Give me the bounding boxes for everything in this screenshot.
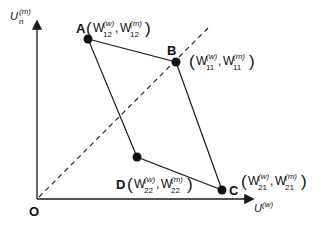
svg-text:11: 11 [206,63,215,72]
svg-text:(m): (m) [233,52,245,61]
svg-text:(m): (m) [171,175,183,184]
svg-text:): ) [187,175,193,194]
svg-text:(m): (m) [285,172,297,181]
label-b: B ( W (w) 11 , W (m) 11 ) [167,43,255,72]
label-c: C ( W (w) 21 , W (m) 21 ) [229,172,307,198]
point-d [133,153,142,162]
label-d: D ( W (w) 22 , W (m) 22 ) [116,175,193,195]
svg-text:(: ( [127,175,133,194]
svg-text:): ) [301,172,307,191]
svg-text:21: 21 [285,183,294,192]
svg-text:C: C [229,183,239,198]
svg-text:D: D [116,177,125,192]
svg-text:21: 21 [258,183,267,192]
svg-text:,: , [218,54,221,68]
svg-text:(: ( [86,19,92,38]
x-axis-label: U [254,202,262,214]
y-axis-sub: n [19,17,23,26]
svg-text:12: 12 [130,30,139,39]
diagonal-dashed-line [39,28,208,197]
svg-text:22: 22 [144,186,153,195]
svg-text:,: , [115,21,118,35]
svg-text:): ) [145,19,151,38]
svg-text:,: , [156,177,159,191]
svg-text:(w): (w) [144,175,155,184]
svg-text:12: 12 [103,30,112,39]
svg-text:A: A [76,21,86,36]
svg-text:(m): (m) [130,19,142,28]
svg-text:11: 11 [233,63,242,72]
svg-text:): ) [249,52,255,71]
svg-text:,: , [270,174,273,188]
y-axis-label: U [10,10,18,22]
svg-text:22: 22 [171,186,180,195]
label-a: A ( W (w) 12 , W (m) 12 ) [76,19,151,39]
svg-text:(w): (w) [103,19,114,28]
svg-text:B: B [167,43,176,58]
x-axis-sup: (w) [262,200,273,209]
point-b [172,58,181,67]
y-axis-sup: (m) [19,7,31,16]
svg-text:(w): (w) [258,172,269,181]
utility-diagram: U (m) n U (w) O A ( W (w) 12 , W (m) 12 … [0,0,319,225]
origin-label: O [29,204,39,219]
svg-text:(: ( [241,172,247,191]
point-c [218,186,227,195]
svg-text:(: ( [189,52,195,71]
svg-text:(w): (w) [206,52,217,61]
